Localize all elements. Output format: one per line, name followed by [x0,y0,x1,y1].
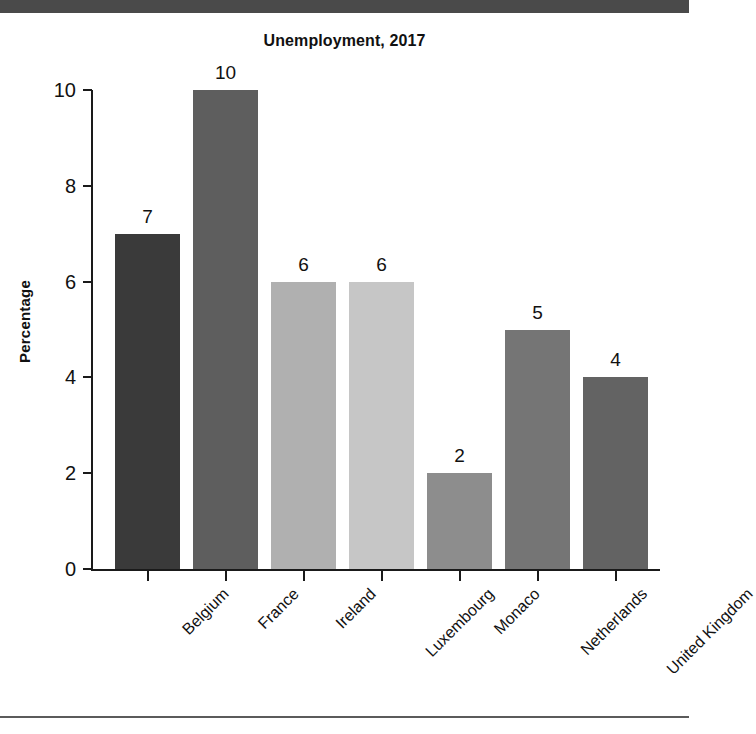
y-tick-label: 4 [30,367,76,387]
y-tick-label: 2 [30,463,76,483]
bottom-divider-rule [0,716,689,718]
x-tick-mark [459,571,461,581]
x-category-label: France [254,585,302,633]
bar-value-label: 7 [118,207,178,226]
bar [427,473,492,569]
bar [349,282,414,569]
x-category-label: United Kingdom [663,585,756,678]
x-tick-mark [381,571,383,581]
bar-value-label: 4 [586,350,646,369]
y-tick-label: 6 [30,272,76,292]
chart-title: Unemployment, 2017 [0,32,689,50]
y-tick-label: 0 [30,559,76,579]
x-tick-mark [303,571,305,581]
y-tick-label: 8 [30,176,76,196]
top-decoration-band [0,0,689,13]
y-tick-mark [83,568,92,570]
chart-figure: Unemployment, 2017 Percentage 0246810 71… [0,13,689,713]
bar-value-label: 10 [196,63,256,82]
y-tick-mark [83,376,92,378]
bar [115,234,180,569]
y-tick-mark [83,281,92,283]
y-tick-mark [83,89,92,91]
x-tick-mark [225,571,227,581]
bar-value-label: 6 [274,255,334,274]
bar [271,282,336,569]
y-tick-mark [83,472,92,474]
x-category-label: Monaco [490,585,543,638]
x-category-label: Ireland [332,585,379,632]
bar-value-label: 2 [430,446,490,465]
x-tick-mark [615,571,617,581]
x-tick-mark [537,571,539,581]
bar-value-label: 5 [508,303,568,322]
bar [193,90,258,569]
x-category-label: Luxembourg [422,585,498,661]
x-category-label: Belgium [178,585,232,639]
y-tick-mark [83,185,92,187]
bar [505,330,570,570]
x-tick-mark [147,571,149,581]
x-axis-line [91,569,660,571]
y-tick-label: 10 [30,80,76,100]
x-category-label: Netherlands [577,585,651,659]
bar-value-label: 6 [352,255,412,274]
bar [583,377,648,569]
plot-area [92,90,660,569]
